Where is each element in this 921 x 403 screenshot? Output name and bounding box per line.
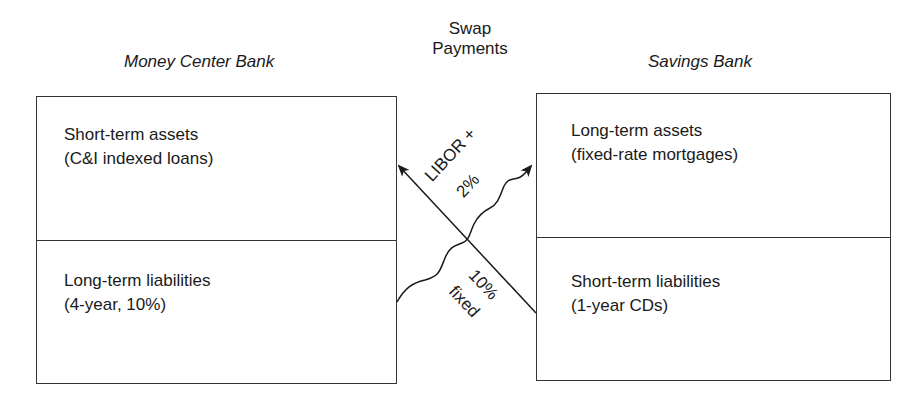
savings-bank-assets-cell: Long-term assets (fixed-rate mortgages) <box>537 94 890 238</box>
liabilities-line2: (1-year CDs) <box>571 294 720 318</box>
money-center-bank-balance-sheet: Short-term assets (C&I indexed loans) Lo… <box>36 96 397 384</box>
liabilities-line1: Short-term liabilities <box>571 270 720 294</box>
money-center-bank-liabilities-text: Long-term liabilities (4-year, 10%) <box>64 269 210 317</box>
swap-payments-label: Swap Payments <box>420 19 520 59</box>
money-center-bank-title: Money Center Bank <box>124 52 274 72</box>
assets-line2: (fixed-rate mortgages) <box>571 143 738 167</box>
money-center-bank-assets-cell: Short-term assets (C&I indexed loans) <box>37 97 396 241</box>
assets-line2: (C&I indexed loans) <box>64 147 213 171</box>
savings-bank-assets-text: Long-term assets (fixed-rate mortgages) <box>571 119 738 167</box>
savings-bank-liabilities-cell: Short-term liabilities (1-year CDs) <box>537 238 890 380</box>
money-center-bank-assets-text: Short-term assets (C&I indexed loans) <box>64 123 213 171</box>
swap-payments-line2: Payments <box>420 39 520 59</box>
money-center-bank-liabilities-cell: Long-term liabilities (4-year, 10%) <box>37 241 396 383</box>
swap-payments-line1: Swap <box>420 19 520 39</box>
assets-line1: Short-term assets <box>64 123 213 147</box>
liabilities-line1: Long-term liabilities <box>64 269 210 293</box>
savings-bank-title: Savings Bank <box>648 52 752 72</box>
savings-bank-balance-sheet: Long-term assets (fixed-rate mortgages) … <box>536 93 891 381</box>
liabilities-line2: (4-year, 10%) <box>64 293 210 317</box>
savings-bank-liabilities-text: Short-term liabilities (1-year CDs) <box>571 270 720 318</box>
libor-spread-label: 2% <box>453 171 483 201</box>
assets-line1: Long-term assets <box>571 119 738 143</box>
